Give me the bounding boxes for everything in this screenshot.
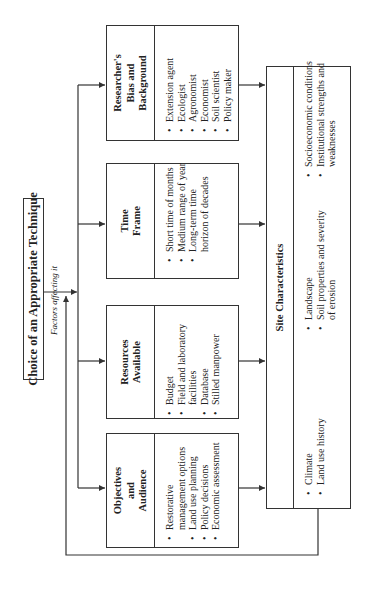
list-item: Socioeconomic conditions <box>303 57 315 177</box>
heading-text: Objectives and Audience <box>112 463 150 518</box>
factor-heading: Objectives and Audience <box>108 434 154 547</box>
list-item: Policy decisions <box>199 432 211 540</box>
factor-heading: Resources Available <box>108 306 154 418</box>
site-list-col-2: Landscape Soil properties and severity o… <box>303 205 343 330</box>
factor-list: Extension agent Ecologist Agronomist Eco… <box>164 27 236 132</box>
list-item: Landscape <box>303 205 315 330</box>
list-item: Database <box>199 307 211 415</box>
list-item: Economist <box>199 27 211 132</box>
list-item: Budget <box>164 307 176 415</box>
list-item: Field and laboratory facilities <box>176 307 199 415</box>
heading-text: Resources Available <box>119 332 144 392</box>
list-item: Long-term time horizon of decades <box>187 157 210 262</box>
diagram-title: Choice of an Appropriate Technique <box>23 198 44 380</box>
factor-heading: Researcher's Bias and Background <box>108 26 154 140</box>
divider <box>154 305 155 419</box>
heading-text: Time Frame <box>119 201 144 241</box>
list-item: Ecologist <box>176 27 188 132</box>
diagram-canvas: Choice of an Appropriate Technique Facto… <box>0 0 370 592</box>
divider <box>154 433 155 548</box>
site-list-col-3: Socioeconomic conditions Institutional s… <box>303 57 343 177</box>
factor-list: Restorative management options Land use … <box>164 432 234 540</box>
list-item: Policy maker <box>222 27 234 132</box>
divider <box>293 66 294 509</box>
list-item: Agronomist <box>187 27 199 132</box>
factor-heading: Time Frame <box>108 164 154 278</box>
divider <box>154 163 155 279</box>
site-heading: Site Characteristics <box>268 67 293 508</box>
list-item: Extension agent <box>164 27 176 132</box>
list-item: Restorative management options <box>164 432 187 540</box>
divider <box>154 25 155 141</box>
list-item: Soil scientist <box>210 27 222 132</box>
list-item: Climate <box>303 375 315 495</box>
diagram-subtitle: Factors affecting it <box>49 245 61 335</box>
list-item: Institutional strengths and weaknesses <box>315 57 338 177</box>
list-item: Economic assessment <box>210 432 222 540</box>
list-item: Stilled manpower <box>210 307 222 415</box>
factor-list: Short time of months Medium range of yea… <box>164 157 224 262</box>
list-item: Soil properties and severity of erosion <box>315 205 338 330</box>
heading-text: Researcher's Bias and Background <box>112 48 150 118</box>
list-item: Short time of months <box>164 157 176 262</box>
list-item: Medium range of year <box>176 157 188 262</box>
site-list-col-1: Climate Land use history <box>303 375 343 495</box>
list-item: Land use history <box>315 375 327 495</box>
factor-list: Budget Field and laboratory facilities D… <box>164 307 228 415</box>
list-item: Land use planning <box>187 432 199 540</box>
